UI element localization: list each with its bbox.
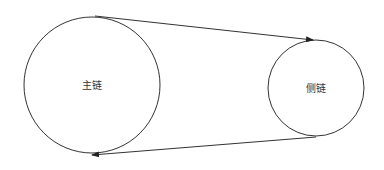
arrow-side-to-main <box>92 137 316 155</box>
main-chain-label: 主链 <box>82 79 102 91</box>
side-chain-label: 侧链 <box>306 82 326 94</box>
arrow-main-to-side <box>95 16 313 40</box>
diagram-canvas: 主链 侧链 <box>0 0 384 170</box>
